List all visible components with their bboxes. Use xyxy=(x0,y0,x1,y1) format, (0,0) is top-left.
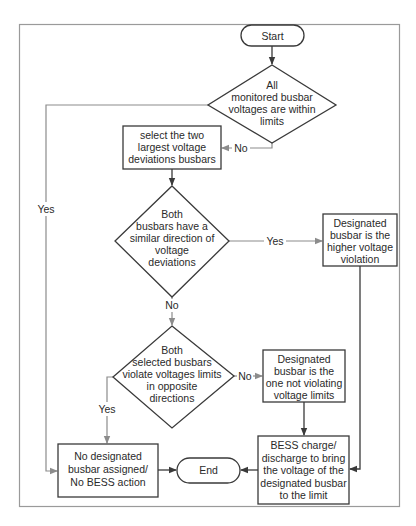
node-end: End xyxy=(177,458,240,483)
node-start: Start xyxy=(241,25,304,46)
node-no-action: No designated busbar assigned/ No BESS a… xyxy=(58,444,158,497)
label-check-no: No xyxy=(234,142,248,154)
node-designated-not-violating-line: voltage limits xyxy=(274,389,335,401)
node-opposite-directions: Both selected busbars violate voltages l… xyxy=(113,326,234,428)
edge-higher-to-bess xyxy=(350,266,360,469)
node-similar-direction-line: similar direction of xyxy=(130,232,215,244)
node-end-text: End xyxy=(199,464,218,476)
node-opposite-directions-line: directions xyxy=(150,392,195,404)
node-designated-not-violating-line: busbar is the xyxy=(274,365,334,377)
label-opposite-yes: Yes xyxy=(98,403,115,415)
node-check-limits-line: voltages are within xyxy=(229,103,316,115)
label-similar-no: No xyxy=(165,299,179,311)
label-similar-yes: Yes xyxy=(266,235,283,247)
label-check-yes: Yes xyxy=(37,203,54,215)
node-opposite-directions-line: in opposite xyxy=(147,380,198,392)
node-no-action-line: No designated xyxy=(74,450,142,462)
node-select-two-line: select the two xyxy=(140,129,204,141)
node-select-two-line: deviations busbars xyxy=(128,153,216,165)
node-opposite-directions-line: Both xyxy=(161,344,183,356)
node-similar-direction-line: Both xyxy=(161,208,183,220)
node-designated-higher-line: Designated xyxy=(333,217,386,229)
node-check-limits-line: monitored busbar xyxy=(231,91,313,103)
node-opposite-directions-line: selected busbars xyxy=(132,356,211,368)
node-check-limits: All monitored busbar voltages are within… xyxy=(208,65,336,143)
node-bess-action-line: BESS charge/ xyxy=(271,439,337,451)
node-designated-higher-line: higher voltage xyxy=(327,241,393,253)
node-designated-not-violating-line: one not violating xyxy=(266,377,343,389)
node-designated-higher: Designated busbar is the higher voltage … xyxy=(323,214,397,266)
node-similar-direction-line: deviations xyxy=(148,256,195,268)
node-start-text: Start xyxy=(261,30,283,42)
node-bess-action-line: to the limit xyxy=(280,489,328,501)
node-select-two-line: largest voltage xyxy=(138,141,206,153)
node-bess-action-line: the voltage of the xyxy=(263,464,344,476)
node-select-two: select the two largest voltage deviation… xyxy=(123,126,221,169)
node-bess-action-line: designated busbar xyxy=(260,477,347,489)
node-bess-action-line: discharge to bring xyxy=(262,452,346,464)
label-opposite-no: No xyxy=(238,370,252,382)
node-designated-higher-line: violation xyxy=(341,253,380,265)
node-opposite-directions-line: violate voltages limits xyxy=(122,368,221,380)
node-bess-action: BESS charge/ discharge to bring the volt… xyxy=(258,436,349,504)
node-similar-direction: Both busbars have a similar direction of… xyxy=(115,186,229,297)
node-designated-higher-line: busbar is the xyxy=(330,229,390,241)
node-check-limits-line: All xyxy=(266,79,278,91)
node-designated-not-violating: Designated busbar is the one not violati… xyxy=(263,350,345,402)
node-similar-direction-line: busbars have a xyxy=(136,220,208,232)
flowchart: No Yes Yes No No Yes Start All monitored… xyxy=(0,0,416,526)
node-check-limits-line: limits xyxy=(260,115,284,127)
node-no-action-line: No BESS action xyxy=(70,476,145,488)
node-no-action-line: busbar assigned/ xyxy=(68,463,148,475)
node-similar-direction-line: voltage xyxy=(155,244,189,256)
node-designated-not-violating-line: Designated xyxy=(277,353,330,365)
